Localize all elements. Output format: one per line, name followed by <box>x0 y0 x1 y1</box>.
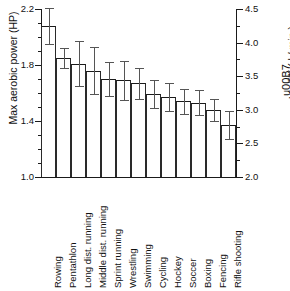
x-axis-label: Middle dist. running <box>98 206 108 288</box>
error-cap-lower <box>120 100 129 101</box>
x-axis-label: Fencing <box>218 254 228 288</box>
x-axis-label: Soccer <box>188 258 198 288</box>
chart-figure: RowingPentathlonLong dist. runningMiddle… <box>0 0 290 291</box>
error-cap-upper <box>225 111 234 112</box>
error-cap-lower <box>90 94 99 95</box>
error-cap-lower <box>180 114 189 115</box>
error-cap-upper <box>60 48 69 49</box>
y-tick-right-major <box>237 43 243 44</box>
error-cap-upper <box>135 68 144 69</box>
x-axis-label: Swimming <box>143 244 153 288</box>
y-tick-right-label: 4.5 <box>245 4 258 14</box>
y-tick-left-major <box>35 177 41 178</box>
bar <box>41 26 56 177</box>
y-tick-right-minor <box>237 93 240 94</box>
error-bar <box>64 48 65 68</box>
y-tick-right-label: 4.0 <box>245 38 258 48</box>
error-cap-lower <box>195 115 204 116</box>
x-axis-line <box>41 177 237 178</box>
error-bar <box>124 61 125 100</box>
bar <box>56 58 71 177</box>
x-axis-label: Wrestling <box>128 249 138 288</box>
error-bar <box>79 41 80 86</box>
error-cap-lower <box>75 86 84 87</box>
error-cap-upper <box>195 90 204 91</box>
error-cap-lower <box>210 121 219 122</box>
error-cap-lower <box>105 96 114 97</box>
error-cap-lower <box>225 139 234 140</box>
y-tick-right-minor <box>237 160 240 161</box>
error-bar <box>139 68 140 99</box>
v-dot-icon: V <box>286 92 290 99</box>
y-tick-left-major <box>35 9 41 10</box>
error-cap-upper <box>90 47 99 48</box>
y-tick-right-major <box>237 76 243 77</box>
x-axis-label: Boxing <box>203 259 213 288</box>
y-tick-right-label: 2.5 <box>245 138 258 148</box>
y-tick-left-minor <box>38 23 41 24</box>
error-cap-upper <box>120 61 129 62</box>
error-bar <box>154 80 155 108</box>
error-cap-upper <box>210 99 219 100</box>
error-bar <box>169 83 170 111</box>
y-tick-right-label: 2.0 <box>245 172 258 182</box>
error-bar <box>109 62 110 96</box>
y-tick-left-label: 1.4 <box>8 116 34 126</box>
y-tick-right-major <box>237 110 243 111</box>
error-cap-lower <box>165 111 174 112</box>
x-axis-label: Long dist. running <box>83 212 93 288</box>
error-cap-lower <box>60 68 69 69</box>
error-cap-lower <box>150 108 159 109</box>
error-bar <box>49 8 50 44</box>
y-tick-right-minor <box>237 26 240 27</box>
error-bar <box>94 47 95 95</box>
error-cap-upper <box>165 83 174 84</box>
y-tick-left-label: 1.8 <box>8 60 34 70</box>
x-axis-label: Sprint running <box>113 229 123 288</box>
y-axis-right-title: VO2max ( l / min ) <box>286 0 290 127</box>
error-cap-upper <box>150 80 159 81</box>
y-tick-left-label: 2.2 <box>8 4 34 14</box>
error-cap-upper <box>45 8 54 9</box>
error-bar <box>199 90 200 115</box>
y-tick-right-major <box>237 143 243 144</box>
x-axis-label: Cycling <box>158 257 168 288</box>
y-tick-right-minor <box>237 127 240 128</box>
error-bar <box>184 89 185 114</box>
x-axis-label: Rifle shooting <box>233 230 243 288</box>
x-axis-label: Hockey <box>173 256 183 288</box>
error-cap-lower <box>45 44 54 45</box>
y-tick-right-label: 3.5 <box>245 71 258 81</box>
error-cap-upper <box>75 41 84 42</box>
error-bar <box>229 111 230 139</box>
error-cap-upper <box>105 62 114 63</box>
x-axis-label: Pentathlon <box>68 243 78 288</box>
y-tick-right-minor <box>237 59 240 60</box>
y-tick-right-major <box>237 9 243 10</box>
error-cap-lower <box>135 99 144 100</box>
y-tick-right-major <box>237 177 243 178</box>
unit-label: ( l / min ) <box>286 26 290 67</box>
y-tick-left-label: 1.0 <box>8 172 34 182</box>
x-axis-label: Rowing <box>53 256 63 288</box>
error-bar <box>214 99 215 121</box>
error-cap-upper <box>180 89 189 90</box>
y-tick-right-label: 3.0 <box>245 105 258 115</box>
